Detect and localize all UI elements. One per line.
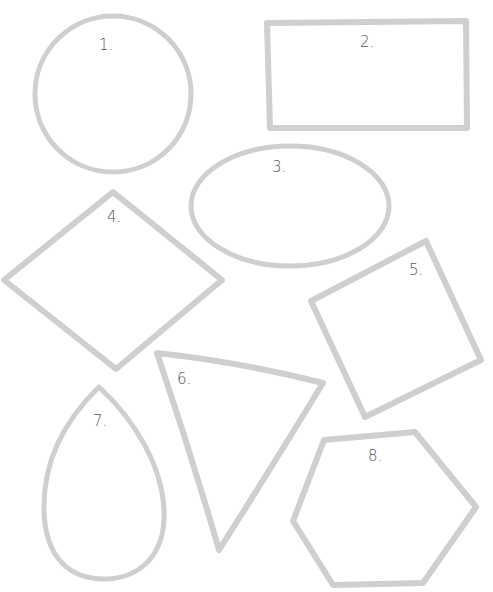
shape-5-label: 5. (409, 261, 423, 279)
shape-5-square: 5. (311, 241, 481, 417)
shape-4-label: 4. (107, 208, 121, 226)
shape-4-rhombus: 4. (4, 192, 222, 369)
shape-3-label: 3. (272, 158, 286, 176)
shape-1-label: 1. (99, 36, 113, 54)
shape-6-triangle: 6. (157, 353, 323, 550)
shape-8-hexagon: 8. (293, 432, 476, 585)
shape-6-label: 6. (177, 370, 191, 388)
shape-2-label: 2. (360, 33, 374, 51)
shapes-worksheet: 1. 2. 3. 4. 5. 6. 7. 8. (0, 0, 493, 592)
shape-7-teardrop: 7. (44, 387, 164, 579)
shape-1-circle: 1. (35, 16, 191, 172)
shape-7-label: 7. (93, 412, 107, 430)
shape-2-rectangle: 2. (267, 21, 467, 128)
shape-3-oval: 3. (191, 146, 389, 266)
shape-8-label: 8. (368, 447, 382, 465)
